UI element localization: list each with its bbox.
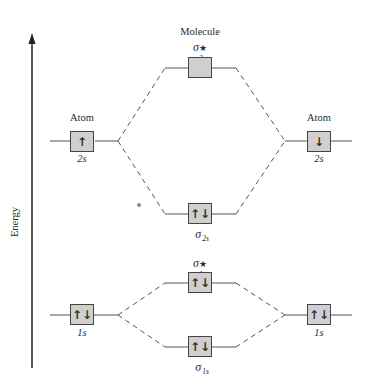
sigma-2s-label: σ2s xyxy=(195,227,209,243)
molecule-heading: Molecule xyxy=(180,26,220,37)
sigma-star-1s-box: ↑↓ xyxy=(188,272,212,293)
sigma-star-2s-box xyxy=(188,57,212,78)
right-atom-1s-label: 1s xyxy=(314,327,323,338)
sigma-1s-label: σ1s xyxy=(195,360,209,376)
spin-paired-arrows-icon: ↑↓ xyxy=(190,277,210,289)
right-atom-2s-box: ↓ xyxy=(307,131,331,152)
sigma-star-1s-label: σ★1s xyxy=(193,256,211,271)
left-atom-1s-box: ↑↓ xyxy=(70,304,94,325)
right-atom-2s-label: 2s xyxy=(314,153,323,164)
sigma-1s-box: ↑↓ xyxy=(188,336,212,357)
left-atom-1s-label: 1s xyxy=(77,327,86,338)
spin-paired-arrows-icon: ↑↓ xyxy=(190,341,210,353)
energy-axis xyxy=(29,33,36,368)
correlation-lines-2s xyxy=(118,68,285,214)
spin-paired-arrows-icon: ↑↓ xyxy=(72,309,92,321)
spin-down-arrow-icon: ↓ xyxy=(314,136,324,148)
left-atom-2s-label: 2s xyxy=(77,153,86,164)
left-atom-heading: Atom xyxy=(70,112,94,123)
right-atom-heading: Atom xyxy=(307,112,331,123)
scan-artifact-dot xyxy=(137,203,141,207)
spin-paired-arrows-icon: ↑↓ xyxy=(190,208,210,220)
left-atom-2s-box: ↑ xyxy=(70,131,94,152)
energy-axis-label: Energy xyxy=(9,207,20,237)
star-icon: ★ xyxy=(199,259,207,269)
right-atom-1s-box: ↑↓ xyxy=(307,304,331,325)
spin-paired-arrows-icon: ↑↓ xyxy=(309,309,329,321)
star-icon: ★ xyxy=(199,43,207,53)
sigma-star-2s-label: σ★2s xyxy=(193,40,211,55)
sigma-2s-box: ↑↓ xyxy=(188,203,212,224)
spin-up-arrow-icon: ↑ xyxy=(77,136,87,148)
